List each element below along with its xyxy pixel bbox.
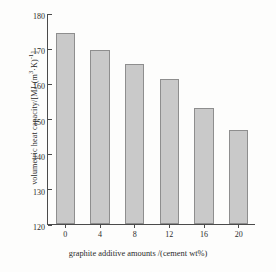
bar — [229, 130, 248, 224]
x-axis-tick: 0 — [63, 224, 67, 239]
x-axis-tick-label: 20 — [235, 230, 243, 239]
y-axis-tick-label: 120 — [33, 223, 48, 232]
y-axis-tick: 130 — [33, 181, 48, 199]
y-axis-tick-label: 130 — [33, 188, 48, 197]
y-axis-title-mid: ·K) — [30, 59, 39, 71]
x-axis-tick-mark — [65, 224, 66, 228]
x-axis-tick-label: 8 — [133, 230, 137, 239]
bar — [194, 108, 213, 224]
plot-area: 120130140150160170180 048121620 — [47, 14, 255, 225]
y-axis-tick-label: 170 — [33, 47, 48, 56]
x-axis-tick: 16 — [200, 224, 208, 239]
x-axis-tick-label: 4 — [98, 230, 102, 239]
x-axis-tick: 8 — [133, 224, 137, 239]
x-axis-tick-label: 12 — [165, 230, 173, 239]
x-axis-tick-mark — [169, 224, 170, 228]
y-axis-tick: 160 — [33, 75, 48, 93]
y-axis-tick: 140 — [33, 146, 48, 164]
y-axis-tick-label: 150 — [33, 118, 48, 127]
bar — [160, 79, 179, 224]
bar — [56, 33, 75, 224]
x-axis-tick-label: 16 — [200, 230, 208, 239]
x-axis-tick: 12 — [165, 224, 173, 239]
y-axis-tick: 180 — [33, 5, 48, 23]
x-axis-tick-label: 0 — [63, 230, 67, 239]
x-axis-tick: 4 — [98, 224, 102, 239]
bar-series — [48, 14, 255, 224]
y-axis-tick: 170 — [33, 40, 48, 58]
bar — [125, 64, 144, 224]
y-axis-tick: 120 — [33, 216, 48, 234]
y-axis-title-sup-1: 3 — [27, 71, 34, 74]
x-axis-tick-mark — [100, 224, 101, 228]
y-axis-tick: 150 — [33, 111, 48, 129]
x-axis-tick: 20 — [235, 224, 243, 239]
y-axis-tick-mark — [48, 225, 52, 226]
x-axis-tick-mark — [238, 224, 239, 228]
x-axis-tick-mark — [204, 224, 205, 228]
y-axis-tick-label: 160 — [33, 82, 48, 91]
y-axis-tick-label: 180 — [33, 12, 48, 21]
x-axis-title: graphite additive amounts /(cement wt%) — [0, 249, 276, 258]
bar — [90, 50, 109, 224]
chart-figure: volumetric heat capacity/[MJ·(m3·K)-1] 1… — [0, 0, 276, 272]
x-axis-tick-mark — [134, 224, 135, 228]
y-axis-tick-label: 140 — [33, 153, 48, 162]
